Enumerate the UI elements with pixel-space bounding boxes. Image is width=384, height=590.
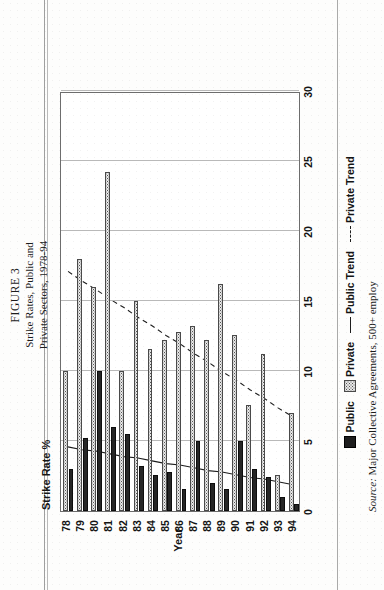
public-swatch-icon: [344, 436, 356, 448]
bar-public: [280, 497, 285, 511]
year-group: [202, 93, 216, 511]
legend-label-public-trend: Public Trend: [344, 251, 356, 314]
bar-public: [252, 469, 257, 511]
year-tick-label: 91: [244, 520, 256, 532]
year-group: [245, 93, 259, 511]
category-axis-title: Year: [172, 520, 184, 560]
year-group: [75, 93, 89, 511]
figure-title-line-1: Strike Rates, Public and: [22, 0, 36, 590]
year-tick-label: 93: [272, 520, 284, 532]
bar-public: [83, 438, 88, 511]
bar-private: [204, 340, 209, 511]
year-group: [287, 93, 301, 511]
chart-legend: Public Private Public Trend Private Tren…: [344, 92, 356, 512]
value-tick-label: 5: [302, 439, 314, 445]
private-swatch-icon: [344, 380, 356, 392]
legend-item-private: Private: [344, 342, 356, 392]
year-tick-label: 84: [145, 520, 157, 532]
year-group: [259, 93, 273, 511]
year-tick-label: 78: [60, 520, 72, 532]
bar-public: [182, 489, 187, 511]
bar-public: [139, 466, 144, 511]
year-group: [61, 93, 75, 511]
scanned-page: FIGURE 3 Strike Rates, Public and Privat…: [0, 0, 384, 590]
bar-public: [266, 477, 271, 511]
year-tick-label: 80: [88, 520, 100, 532]
year-tick-label: 85: [159, 520, 171, 532]
figure-label: FIGURE 3: [8, 0, 22, 590]
legend-item-private-trend: Private Trend: [344, 156, 356, 242]
year-tick-label: 82: [117, 520, 129, 532]
legend-label-private-trend: Private Trend: [344, 156, 356, 223]
year-group: [160, 93, 174, 511]
bar-public: [97, 371, 102, 511]
year-group: [103, 93, 117, 511]
year-tick-label: 92: [258, 520, 270, 532]
year-tick-label: 81: [102, 520, 114, 532]
bar-public: [125, 434, 130, 511]
value-tick-label: 10: [302, 366, 314, 378]
value-tick-label: 20: [302, 226, 314, 238]
bar-public: [210, 483, 215, 511]
source-note: Source: Major Collective Agreements, 500…: [366, 52, 378, 512]
bar-private: [261, 354, 266, 511]
year-group: [273, 93, 287, 511]
value-tick-label: 15: [302, 296, 314, 308]
source-text: Major Collective Agreements, 500+ employ: [366, 281, 378, 475]
year-tick-label: 79: [74, 520, 86, 532]
bar-private: [232, 335, 237, 511]
bar-public: [224, 489, 229, 511]
bar-private: [176, 332, 181, 511]
year-tick-label: 87: [187, 520, 199, 532]
year-tick-label: 90: [229, 520, 241, 532]
bar-private: [275, 475, 280, 511]
bar-private: [134, 301, 139, 511]
bar-private: [105, 172, 110, 511]
bar-private: [246, 405, 251, 511]
legend-label-public: Public: [344, 401, 356, 433]
bar-public: [167, 472, 172, 511]
value-tick-label: 0: [302, 509, 314, 515]
plot-area: [60, 92, 300, 512]
year-group: [117, 93, 131, 511]
year-group: [230, 93, 244, 511]
year-tick-label: 88: [201, 520, 213, 532]
year-tick-label: 94: [286, 520, 298, 532]
legend-item-public: Public: [344, 401, 356, 448]
bar-private: [162, 340, 167, 511]
bar-private: [190, 326, 195, 511]
year-group: [132, 93, 146, 511]
legend-label-private: Private: [344, 342, 356, 377]
year-tick-label: 89: [215, 520, 227, 532]
year-group: [89, 93, 103, 511]
year-tick-label: 83: [131, 520, 143, 532]
bar-public: [238, 441, 243, 511]
legend-item-public-trend: Public Trend: [344, 251, 356, 333]
bar-private: [77, 259, 82, 511]
year-group: [188, 93, 202, 511]
year-group: [216, 93, 230, 511]
bar-public: [196, 441, 201, 511]
source-prefix: Source:: [366, 478, 378, 512]
bar-private: [119, 371, 124, 511]
bar-public: [111, 427, 116, 511]
dashed-line-icon: [350, 226, 351, 242]
bar-public: [69, 469, 74, 511]
value-axis-ticks: 051015202530: [302, 92, 318, 512]
rotated-figure-canvas: FIGURE 3 Strike Rates, Public and Privat…: [0, 0, 384, 590]
bar-private: [148, 349, 153, 511]
bar-public: [153, 475, 158, 511]
solid-line-icon: [350, 317, 351, 333]
year-group: [146, 93, 160, 511]
value-tick-label: 30: [302, 86, 314, 98]
year-group: [174, 93, 188, 511]
bar-public: [294, 504, 299, 511]
value-tick-label: 25: [302, 156, 314, 168]
bar-private: [63, 371, 68, 511]
bar-private: [289, 413, 294, 511]
value-axis-caption: Strike Rate %: [40, 440, 52, 510]
gridline: [61, 90, 299, 91]
bar-private: [218, 284, 223, 511]
bar-private: [91, 287, 96, 511]
